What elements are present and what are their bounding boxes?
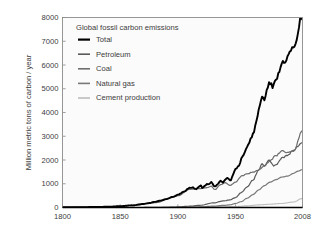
y-tick-label: 2000	[42, 156, 59, 165]
y-axis-title: Million metric tons of carbon / year	[24, 54, 33, 170]
plot-area-background	[63, 18, 303, 208]
legend-item-label: Petroleum	[96, 50, 131, 59]
y-tick-label: 5000	[42, 84, 59, 93]
y-axis-tick-labels: 010002000300040005000600070008000	[42, 13, 59, 212]
x-tick-label: 1900	[169, 212, 186, 221]
legend-item-label: Natural gas	[96, 79, 135, 88]
y-tick-label: 6000	[42, 61, 59, 70]
y-tick-label: 3000	[42, 132, 59, 141]
legend-item-label: Coal	[96, 64, 112, 73]
y-tick-label: 7000	[42, 37, 59, 46]
x-tick-label: 1950	[227, 212, 244, 221]
x-tick-label: 1800	[54, 212, 71, 221]
x-tick-label: 1850	[112, 212, 129, 221]
legend-item-label: Cement production	[96, 93, 160, 102]
chart-figure: 010002000300040005000600070008000 180018…	[0, 0, 321, 245]
y-tick-label: 8000	[42, 13, 59, 22]
legend-title: Global fossil carbon emissions	[76, 23, 179, 32]
x-tick-label: 2008	[294, 212, 311, 221]
legend-item-label: Total	[96, 35, 112, 44]
emissions-line-chart: 010002000300040005000600070008000 180018…	[0, 0, 321, 245]
y-tick-label: 1000	[42, 179, 59, 188]
y-tick-label: 4000	[42, 108, 59, 117]
